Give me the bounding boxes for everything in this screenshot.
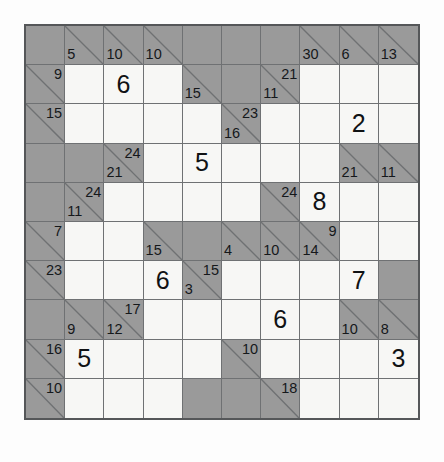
entry-cell[interactable] [300,300,339,339]
entry-cell[interactable] [300,65,339,104]
clue-cell: 16 [26,340,65,379]
entry-cell[interactable] [222,183,261,222]
clue-cell: 4 [222,222,261,261]
kakuro-grid-border: 5101030613961521111523162242152111241124… [24,24,420,420]
entry-cell[interactable] [65,222,104,261]
clue-across-value: 23 [234,104,258,123]
entry-cell[interactable] [104,340,143,379]
entry-cell[interactable] [104,379,143,418]
clue-cell: 2421 [104,144,143,183]
entry-cell[interactable] [104,261,143,300]
kakuro-grid[interactable]: 5101030613961521111523162242152111241124… [26,26,418,418]
clue-cell: 2316 [222,104,261,143]
entry-cell[interactable]: 6 [144,261,183,300]
entry-cell[interactable] [144,340,183,379]
clue-cell: 24 [261,183,300,222]
clue-down-value: 11 [381,163,405,182]
clue-down-value: 21 [342,163,366,182]
entry-cell[interactable] [104,222,143,261]
entry-cell[interactable]: 2 [340,104,379,143]
clue-across-value: 24 [273,183,297,202]
entry-cell[interactable] [65,104,104,143]
entry-cell[interactable] [379,65,418,104]
entry-cell[interactable] [183,300,222,339]
entry-cell[interactable] [65,261,104,300]
blocked-cell [183,222,222,261]
entry-cell[interactable] [340,379,379,418]
entry-cell[interactable] [183,104,222,143]
clue-cell: 10 [144,26,183,65]
kakuro-page: 5101030613961521111523162242152111241124… [0,0,444,462]
entry-cell[interactable] [340,222,379,261]
entry-value: 3 [379,340,418,378]
entry-cell[interactable]: 5 [65,340,104,379]
entry-cell[interactable]: 6 [261,300,300,339]
entry-cell[interactable] [340,65,379,104]
entry-cell[interactable] [261,144,300,183]
clue-cell: 10 [104,26,143,65]
entry-cell[interactable]: 6 [104,65,143,104]
entry-cell[interactable] [222,261,261,300]
entry-cell[interactable] [65,379,104,418]
entry-cell[interactable] [104,104,143,143]
entry-cell[interactable]: 7 [340,261,379,300]
clue-cell: 7 [26,222,65,261]
blocked-cell [26,26,65,65]
clue-cell: 5 [65,26,104,65]
entry-cell[interactable] [379,222,418,261]
entry-cell[interactable] [300,144,339,183]
entry-cell[interactable] [300,340,339,379]
clue-cell: 10 [26,379,65,418]
entry-cell[interactable] [183,340,222,379]
entry-value: 6 [261,300,299,338]
clue-cell: 10 [261,222,300,261]
clue-cell: 2111 [261,65,300,104]
clue-down-value: 13 [381,45,405,64]
entry-cell[interactable] [340,340,379,379]
entry-cell[interactable] [300,104,339,143]
entry-cell[interactable] [300,261,339,300]
entry-cell[interactable] [104,183,143,222]
clue-cell: 30 [300,26,339,65]
clue-cell: 6 [340,26,379,65]
entry-cell[interactable] [261,340,300,379]
entry-cell[interactable] [379,379,418,418]
entry-value: 2 [340,104,378,142]
entry-cell[interactable] [222,300,261,339]
entry-cell[interactable] [144,104,183,143]
entry-cell[interactable]: 8 [300,183,339,222]
entry-cell[interactable] [300,379,339,418]
entry-cell[interactable] [144,300,183,339]
blocked-cell [183,379,222,418]
entry-cell[interactable] [379,104,418,143]
entry-cell[interactable] [261,261,300,300]
entry-cell[interactable] [144,183,183,222]
clue-down-value: 6 [342,45,366,64]
clue-cell: 9 [65,300,104,339]
clue-down-value: 10 [146,45,170,64]
entry-cell[interactable] [183,183,222,222]
clue-across-value: 17 [117,300,141,319]
entry-cell[interactable]: 5 [183,144,222,183]
clue-across-value: 15 [38,104,62,123]
clue-across-value: 18 [273,379,297,398]
clue-across-value: 9 [313,222,337,241]
entry-cell[interactable] [65,65,104,104]
entry-cell[interactable] [379,183,418,222]
clue-cell: 18 [261,379,300,418]
clue-down-value: 11 [67,202,91,221]
entry-cell[interactable]: 3 [379,340,418,379]
entry-cell[interactable] [144,144,183,183]
clue-cell: 11 [379,144,418,183]
clue-down-value: 12 [106,320,130,339]
entry-cell[interactable] [261,104,300,143]
blocked-cell [183,26,222,65]
entry-cell[interactable] [144,379,183,418]
entry-cell[interactable] [340,183,379,222]
clue-across-value: 24 [117,144,141,163]
entry-cell[interactable] [222,144,261,183]
clue-down-value: 21 [106,163,130,182]
clue-down-value: 9 [67,320,91,339]
clue-cell: 15 [144,222,183,261]
entry-cell[interactable] [144,65,183,104]
